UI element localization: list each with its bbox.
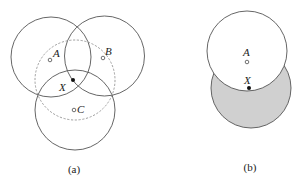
label-x: X — [58, 81, 67, 93]
point-c — [72, 108, 76, 112]
point-x-b — [247, 86, 251, 90]
caption-a: (a) — [68, 163, 81, 176]
label-a: A — [52, 47, 60, 59]
circle-a — [11, 17, 91, 97]
label-c: C — [77, 103, 85, 115]
point-x — [71, 78, 75, 82]
label-a-b: A — [242, 46, 250, 58]
panel-b: A X (b) — [207, 11, 291, 174]
diagram-canvas: A B C X (a) A X (b) — [0, 0, 298, 183]
label-x-b: X — [243, 74, 252, 86]
label-b: B — [105, 45, 112, 57]
caption-b: (b) — [244, 161, 257, 174]
point-a — [48, 58, 52, 62]
panel-a: A B C X (a) — [11, 16, 145, 176]
point-a-b — [245, 60, 249, 64]
